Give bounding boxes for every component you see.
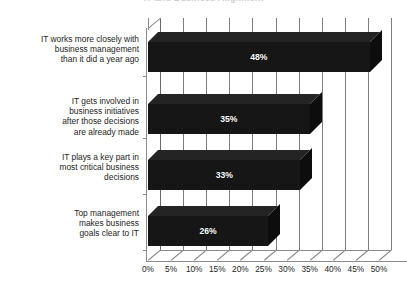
x-tick-label-10: 10% bbox=[183, 264, 205, 274]
bar-1-value-label: 35% bbox=[148, 114, 310, 124]
bar-3-value-label: 26% bbox=[148, 226, 268, 236]
x-tick-label-20: 20% bbox=[229, 264, 251, 274]
x-tick-label-45: 45% bbox=[345, 264, 367, 274]
x-tick-label-0: 0% bbox=[137, 264, 159, 274]
x-axis-tick-labels: 0%5%10%15%20%25%30%35%40%45%50% bbox=[0, 0, 407, 285]
x-tick-label-50: 50% bbox=[368, 264, 390, 274]
x-tick-label-35: 35% bbox=[299, 264, 321, 274]
x-tick-label-25: 25% bbox=[253, 264, 275, 274]
x-tick-label-5: 5% bbox=[160, 264, 182, 274]
bar-0-value-label: 48% bbox=[148, 52, 370, 62]
x-tick-label-15: 15% bbox=[206, 264, 228, 274]
bar-chart: IT and Business Alignment IT works more … bbox=[0, 0, 407, 285]
x-tick-label-40: 40% bbox=[322, 264, 344, 274]
x-tick-label-30: 30% bbox=[276, 264, 298, 274]
bar-2-value-label: 33% bbox=[148, 170, 300, 180]
